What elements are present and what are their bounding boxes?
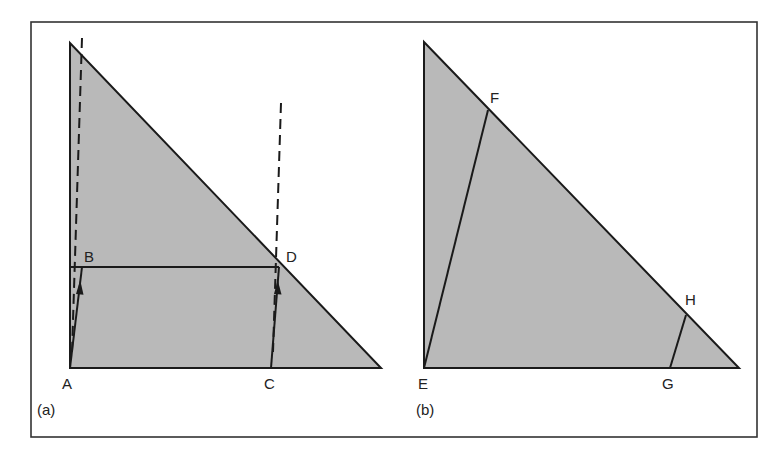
- triangle-a: [70, 43, 381, 368]
- figure: A B C D (a) E F G H (b): [0, 0, 783, 460]
- panel-a: A B C D (a): [37, 38, 381, 418]
- label-b: B: [84, 248, 94, 265]
- panel-b: E F G H (b): [416, 42, 739, 418]
- label-h: H: [685, 291, 696, 308]
- caption-a: (a): [37, 401, 55, 418]
- label-g: G: [662, 375, 674, 392]
- label-c: C: [264, 375, 275, 392]
- label-f: F: [490, 89, 499, 106]
- label-e: E: [418, 375, 428, 392]
- label-d: D: [286, 248, 297, 265]
- diagram-canvas: A B C D (a) E F G H (b): [0, 0, 783, 460]
- triangle-b: [424, 42, 739, 368]
- label-a: A: [62, 375, 72, 392]
- caption-b: (b): [416, 401, 434, 418]
